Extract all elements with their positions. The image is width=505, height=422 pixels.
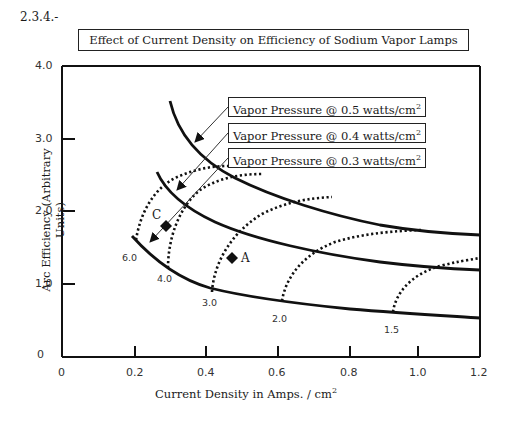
- point-c-marker: [160, 220, 172, 232]
- legend-entry-0-5: Vapor Pressure @ 0.5 watts/cm2: [228, 97, 426, 117]
- x-tick-label: 0.6: [268, 366, 286, 379]
- constant-density-curves: [136, 166, 480, 312]
- density-label-3-0: 3.0: [202, 297, 217, 308]
- y-tick-label: 4.0: [35, 59, 53, 72]
- density-label-4-0: 4.0: [157, 273, 172, 284]
- legend-entry-0-3: Vapor Pressure @ 0.3 watts/cm2: [228, 148, 426, 168]
- x-tick-label: 0.8: [340, 366, 358, 379]
- point-a-label: A: [241, 251, 250, 265]
- x-tick-label: 1.0: [409, 366, 427, 379]
- x-axis-label: Current Density in Amps. / cm2: [155, 386, 337, 401]
- x-ticks: [135, 346, 418, 357]
- y-tick-label: 0: [37, 348, 44, 361]
- density-curve-3-0: [212, 197, 332, 292]
- y-axis-label: Arc Efficiency (Arbitrary Units): [39, 135, 67, 305]
- x-tick-label: 0.4: [197, 366, 215, 379]
- x-tick-label: 1.2: [470, 366, 488, 379]
- chart-plot: [0, 0, 505, 422]
- density-label-2-0: 2.0: [272, 313, 287, 324]
- point-c-label: C: [152, 208, 161, 222]
- density-label-6-0: 6.0: [122, 252, 137, 263]
- point-a-marker: [226, 252, 238, 264]
- density-label-1-5: 1.5: [384, 324, 399, 335]
- x-tick-label: 0.2: [126, 366, 144, 379]
- x-tick-label: 0: [58, 366, 65, 379]
- legend-entry-0-4: Vapor Pressure @ 0.4 watts/cm2: [228, 123, 426, 143]
